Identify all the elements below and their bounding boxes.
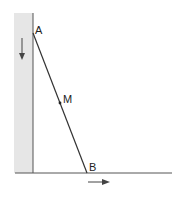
label-m: M bbox=[63, 93, 72, 105]
ladder-diagram: A M B bbox=[0, 0, 179, 197]
midpoint-m bbox=[59, 102, 62, 105]
label-a: A bbox=[35, 24, 43, 36]
label-b: B bbox=[89, 161, 96, 173]
arrow-right-icon bbox=[88, 179, 110, 185]
wall bbox=[14, 13, 33, 173]
